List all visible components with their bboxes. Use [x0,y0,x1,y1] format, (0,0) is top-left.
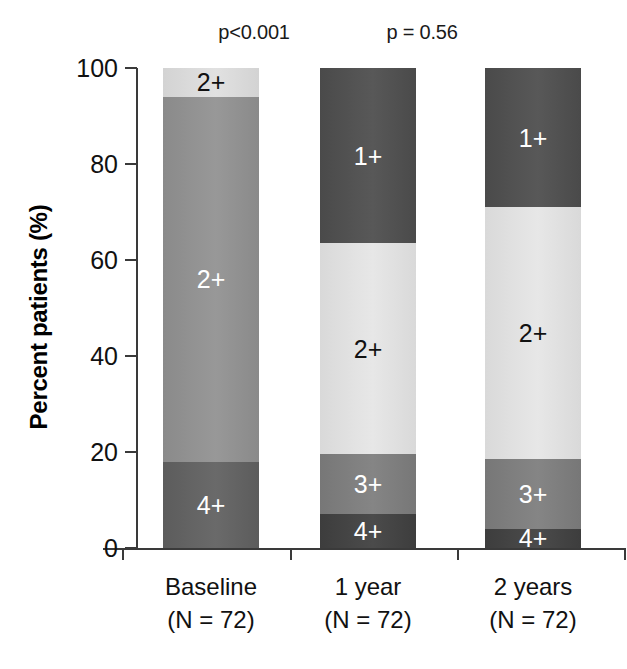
bar-segment-label: 2+ [163,267,259,292]
bar-1-year[interactable]: 1+2+3+4+ [320,68,416,548]
bar-segment-label: 3+ [320,472,416,497]
bar-baseline[interactable]: 2+2+4+ [163,68,259,548]
plot-area: 2+2+4+1+2+3+4+1+2+3+4+ [0,0,627,669]
bar-segment-label: 1+ [320,143,416,168]
bar-segment-2plus[interactable]: 2+ [320,243,416,454]
bar-segment-2plus[interactable]: 2+ [163,97,259,462]
bar-segment-label: 4+ [320,519,416,544]
x-category-name: Baseline [165,573,257,600]
bar-segment-label: 2+ [485,321,581,346]
bar-segment-label: 2+ [163,70,259,95]
bar-segment-1plus[interactable]: 1+ [485,68,581,207]
bar-2-years[interactable]: 1+2+3+4+ [485,68,581,548]
x-category-name: 1 year [335,573,402,600]
bar-segment-label: 2+ [320,336,416,361]
x-category-sample-size: (N = 72) [433,603,627,636]
bar-segment-4plus[interactable]: 4+ [163,462,259,548]
bar-segment-3plus[interactable]: 3+ [485,459,581,529]
bar-segment-2plus[interactable]: 2+ [485,207,581,459]
bar-segment-4plus[interactable]: 4+ [485,529,581,548]
bar-segment-label: 1+ [485,125,581,150]
bar-segment-4plus[interactable]: 4+ [320,514,416,548]
bar-segment-label: 4+ [485,529,581,548]
bar-segment-2plus[interactable]: 2+ [163,68,259,97]
x-category-name: 2 years [494,573,573,600]
bar-segment-1plus[interactable]: 1+ [320,68,416,243]
bar-segment-label: 3+ [485,481,581,506]
x-category-2-years: 2 years(N = 72) [433,570,627,636]
bar-segment-label: 4+ [163,492,259,517]
stacked-bar-chart-figure: p<0.001 p = 0.56 Percent patients (%) 10… [0,0,627,669]
bar-segment-3plus[interactable]: 3+ [320,454,416,514]
